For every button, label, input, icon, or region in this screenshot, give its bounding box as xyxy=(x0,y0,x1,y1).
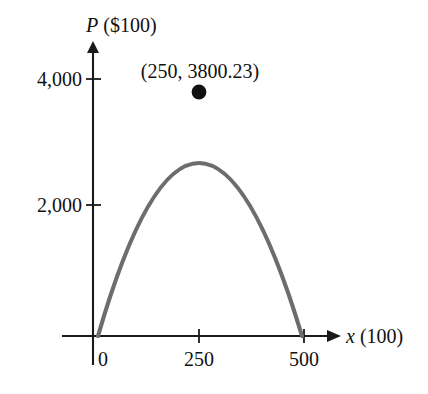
tick-labels-group: 4,000 2,000 0 250 500 xyxy=(37,68,319,370)
y-tick-label-4000: 4,000 xyxy=(37,68,82,90)
y-axis-arrow-icon xyxy=(87,41,99,53)
vertex-marker xyxy=(192,85,207,100)
x-axis-title-units: (100) xyxy=(360,325,403,348)
x-axis-arrow-icon xyxy=(327,330,341,342)
y-axis-title-variable: P xyxy=(85,14,98,36)
x-axis-title-variable: x xyxy=(345,325,355,347)
profit-curve-group xyxy=(98,85,302,336)
profit-curve xyxy=(98,163,302,336)
y-axis-title-units: ($100) xyxy=(103,14,156,37)
y-tick-label-2000: 2,000 xyxy=(37,194,82,216)
profit-parabola-figure: 4,000 2,000 0 250 500 P ($100) x (100) (… xyxy=(0,0,428,394)
y-axis-title: P ($100) xyxy=(85,14,157,37)
tick-marks-group xyxy=(86,79,304,343)
x-tick-label-500: 500 xyxy=(289,348,319,370)
x-tick-label-0: 0 xyxy=(98,348,108,370)
chart-canvas: 4,000 2,000 0 250 500 P ($100) x (100) (… xyxy=(0,0,428,394)
vertex-annotation-label: (250, 3800.23) xyxy=(141,60,259,83)
x-axis-title: x (100) xyxy=(345,325,403,348)
x-tick-label-250: 250 xyxy=(184,348,214,370)
annotations-group: (250, 3800.23) xyxy=(141,60,259,83)
